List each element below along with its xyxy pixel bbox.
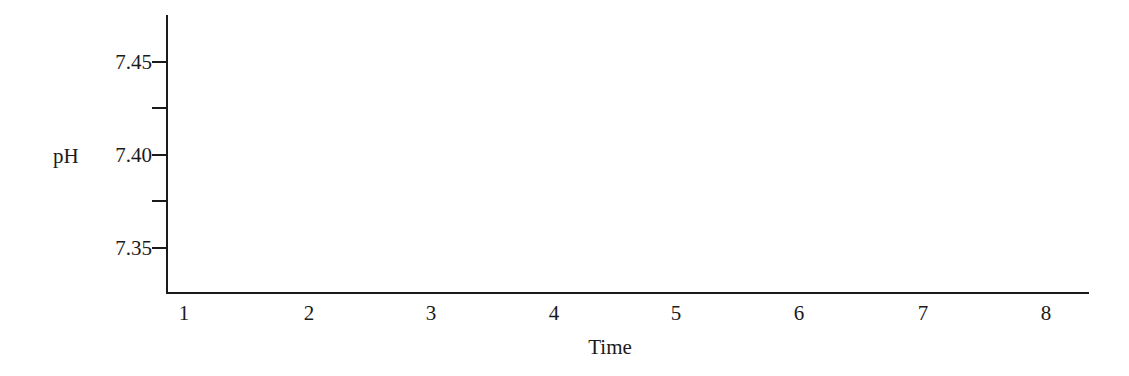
x-tick-label: 4 [549,303,560,324]
y-tick-label: 7.45 [115,52,152,73]
y-tick-major [152,154,167,156]
x-tick-label: 7 [918,303,929,324]
x-tick-label: 5 [671,303,682,324]
y-axis-title: pH [53,146,79,167]
x-tick-label: 2 [304,303,315,324]
x-tick-label: 3 [426,303,437,324]
y-tick-major [152,61,167,63]
x-axis-title: Time [588,337,632,358]
ph-time-chart: 7.45 7.40 7.35 pH 1 2 3 4 5 6 7 8 Time [0,0,1129,376]
y-tick-label: 7.35 [115,238,152,259]
x-tick-label: 1 [179,303,190,324]
x-tick-label: 8 [1041,303,1052,324]
x-tick-label: 6 [794,303,805,324]
y-tick-minor [152,107,167,109]
y-tick-label: 7.40 [115,145,152,166]
x-axis-line [166,292,1089,294]
y-tick-major [152,247,167,249]
y-tick-minor [152,200,167,202]
